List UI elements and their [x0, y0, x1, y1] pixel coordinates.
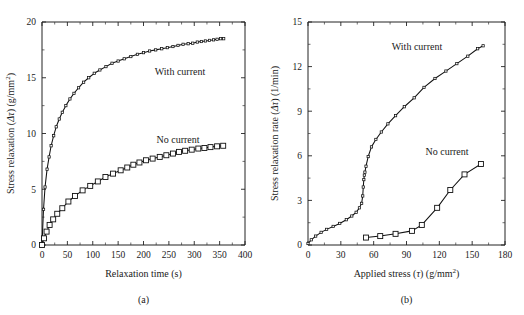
x-tick-label: 150 — [465, 250, 480, 260]
y-tick-label: 6 — [297, 151, 302, 161]
series-with-current — [307, 45, 484, 245]
data-point-marker — [117, 60, 119, 62]
panel-caption: (b) — [401, 294, 413, 306]
data-point-marker — [69, 98, 71, 100]
panel-caption: (a) — [138, 294, 149, 306]
x-tick-label: 0 — [40, 250, 45, 260]
data-point-marker — [362, 195, 364, 197]
plot-b: 030609012015018003691215With currentNo c… — [262, 0, 524, 315]
data-point-marker — [476, 48, 478, 50]
data-point-marker — [47, 222, 52, 227]
y-axis-title: Stress relaxation (Δτ) (g/mm2) — [4, 73, 17, 194]
data-point-marker — [413, 97, 415, 99]
x-tick-label: 350 — [213, 250, 228, 260]
data-point-marker — [142, 52, 144, 54]
axes-frame — [308, 22, 505, 245]
data-point-marker — [130, 55, 132, 57]
data-point-marker — [221, 143, 226, 148]
data-point-marker — [332, 225, 334, 227]
data-point-marker — [423, 86, 425, 88]
data-point-marker — [42, 208, 44, 210]
y-tick-label: 0 — [31, 240, 36, 250]
data-point-marker — [95, 179, 100, 184]
data-point-marker — [183, 148, 188, 153]
data-point-marker — [419, 222, 424, 227]
data-point-marker — [77, 87, 79, 89]
data-point-marker — [80, 188, 85, 193]
data-point-marker — [150, 156, 155, 161]
data-point-marker — [177, 44, 179, 46]
data-point-marker — [44, 186, 46, 188]
data-point-marker — [105, 65, 107, 67]
data-point-marker — [200, 40, 202, 42]
x-tick-label: 400 — [238, 250, 253, 260]
data-point-marker — [478, 161, 483, 166]
data-point-marker — [72, 193, 77, 198]
data-point-marker — [172, 45, 174, 47]
data-point-marker — [363, 178, 365, 180]
data-point-marker — [111, 62, 113, 64]
data-point-marker — [103, 174, 108, 179]
data-point-marker — [310, 239, 312, 241]
data-point-marker — [177, 149, 182, 154]
data-point-marker — [204, 40, 206, 42]
x-tick-label: 100 — [86, 250, 101, 260]
data-point-marker — [187, 43, 189, 45]
data-point-marker — [355, 211, 357, 213]
plot-a: 05010015020025030035040005101520With cur… — [0, 0, 262, 315]
data-point-marker — [66, 199, 71, 204]
data-point-marker — [409, 228, 414, 233]
x-tick-label: 250 — [162, 250, 177, 260]
figure-container: 05010015020025030035040005101520With cur… — [0, 0, 524, 315]
x-tick-label: 150 — [111, 250, 126, 260]
data-point-marker — [378, 234, 383, 239]
data-point-marker — [345, 219, 347, 221]
y-tick-label: 10 — [27, 129, 37, 139]
x-tick-label: 180 — [498, 250, 513, 260]
x-axis-title: Applied stress (τ) (g/mm2) — [354, 267, 460, 280]
data-point-marker — [364, 235, 369, 240]
y-tick-label: 5 — [31, 185, 36, 195]
data-point-marker — [40, 243, 45, 248]
data-point-marker — [157, 154, 162, 159]
y-tick-label: 20 — [27, 17, 37, 27]
series-no-current — [364, 161, 484, 240]
x-tick-label: 120 — [432, 250, 447, 260]
data-point-marker — [393, 231, 398, 236]
data-point-marker — [358, 207, 360, 209]
data-point-marker — [82, 81, 84, 83]
data-point-marker — [320, 231, 322, 233]
panel-b: 030609012015018003691215With currentNo c… — [262, 0, 524, 315]
y-axis-title: Stress relaxation rate (Δτ) (1/min) — [269, 66, 281, 201]
data-point-marker — [58, 118, 60, 120]
x-tick-label: 0 — [306, 250, 311, 260]
data-point-marker — [48, 156, 50, 158]
data-point-marker — [161, 48, 163, 50]
data-point-marker — [118, 168, 123, 173]
data-point-marker — [189, 147, 194, 152]
data-point-marker — [196, 146, 201, 151]
annotation-no-current: No current — [156, 134, 199, 145]
data-point-marker — [192, 42, 194, 44]
x-tick-label: 60 — [369, 250, 379, 260]
data-point-marker — [208, 145, 213, 150]
data-point-marker — [196, 41, 198, 43]
data-point-marker — [216, 38, 218, 40]
data-point-marker — [387, 123, 389, 125]
data-point-marker — [482, 45, 484, 47]
data-point-marker — [467, 55, 469, 57]
data-point-marker — [182, 43, 184, 45]
data-point-marker — [166, 47, 168, 49]
data-point-marker — [367, 155, 369, 157]
data-point-marker — [136, 53, 138, 55]
data-point-marker — [360, 202, 362, 204]
x-tick-label: 300 — [187, 250, 202, 260]
series-line — [308, 46, 483, 244]
data-point-marker — [60, 206, 65, 211]
data-point-marker — [307, 242, 309, 244]
data-point-marker — [55, 126, 57, 128]
x-axis-ticks: 050100150200250300350400 — [40, 22, 253, 260]
data-point-marker — [88, 77, 90, 79]
data-point-marker — [403, 106, 405, 108]
data-point-marker — [88, 183, 93, 188]
